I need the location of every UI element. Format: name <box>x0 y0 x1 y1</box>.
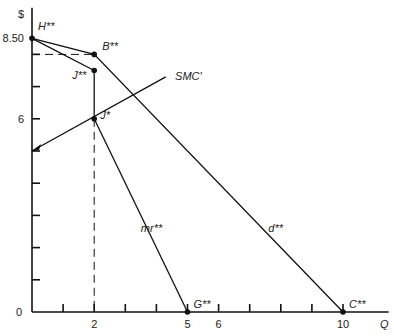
point-h <box>29 36 35 42</box>
y-tick-label: 6 <box>18 113 24 125</box>
x-tick-label: 10 <box>337 318 349 330</box>
economics-diagram: $Q 02561068.50 H**B**J**J*G**C**mr**d**S… <box>0 0 394 336</box>
x-tick-label: 2 <box>91 318 97 330</box>
point-j1 <box>91 116 97 122</box>
y-tick-label: 8.50 <box>3 32 24 44</box>
curve-label: d** <box>268 222 283 234</box>
x-tick-label: 5 <box>184 318 190 330</box>
point-label-j1: J* <box>99 109 111 121</box>
point-label-j2: J** <box>71 69 87 81</box>
point-label-b: B** <box>102 40 119 52</box>
point-label-g: G** <box>194 298 212 310</box>
x-tick-label: 0 <box>16 306 22 318</box>
point-b <box>91 52 97 58</box>
labels: H**B**J**J*G**C**mr**d**SMC' <box>38 20 366 310</box>
y-axis-label: $ <box>18 8 24 20</box>
axes: $Q <box>18 8 389 330</box>
point-label-h: H** <box>38 20 55 32</box>
x-tick-label: 6 <box>216 318 222 330</box>
point-label-c: C** <box>349 298 366 310</box>
x-axis-label: Q <box>380 318 389 330</box>
point-g <box>185 309 191 315</box>
curve-label: SMC' <box>175 70 202 82</box>
curve-smc <box>32 77 166 151</box>
point-c <box>340 309 346 315</box>
curve-mr <box>94 119 187 312</box>
curve-label: mr** <box>141 222 163 234</box>
dashed-guides <box>32 54 94 312</box>
point-j2 <box>91 68 97 74</box>
